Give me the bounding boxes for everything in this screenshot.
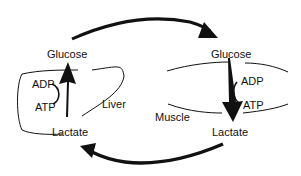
- liver-atp-label: ATP: [35, 101, 56, 113]
- glucose-transport-arrow: [72, 19, 210, 39]
- liver-lactate-label: Lactate: [52, 126, 88, 138]
- muscle-glycolysis-arrow: [222, 58, 243, 122]
- liver-organ-label: Liver: [102, 98, 126, 110]
- muscle-organ-label: Muscle: [155, 111, 190, 123]
- muscle-glucose-label: Glucose: [211, 48, 251, 60]
- muscle-atp-label: ATP: [243, 99, 264, 111]
- liver-glucose-label: Glucose: [47, 48, 87, 60]
- muscle-lactate-label: Lactate: [212, 126, 248, 138]
- lactate-transport-arrow: [92, 144, 223, 163]
- muscle-adp-label: ADP: [241, 75, 264, 87]
- lactate-transport-arrowhead: [80, 143, 96, 158]
- cori-cycle-diagram: Glucose ADP ATP Liver Lactate Glucose AD…: [0, 0, 301, 176]
- liver-adp-label: ADP: [32, 78, 55, 90]
- muscle-outline-top: [167, 62, 288, 72]
